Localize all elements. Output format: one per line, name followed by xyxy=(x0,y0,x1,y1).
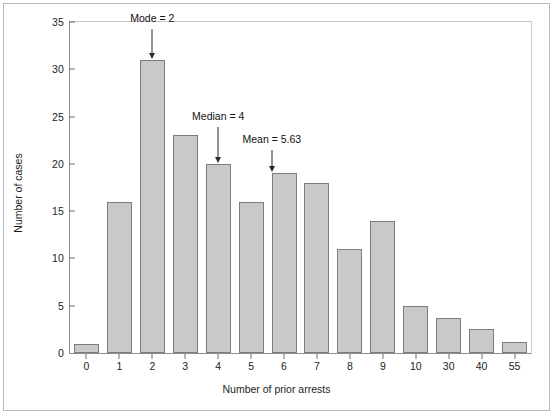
histogram-bar xyxy=(436,318,461,353)
histogram-bar xyxy=(272,173,297,353)
histogram-bar xyxy=(140,60,165,353)
x-axis-tick-mark xyxy=(382,354,383,359)
y-axis-tick-label: 20 xyxy=(52,158,64,170)
x-axis-tick-mark xyxy=(448,354,449,359)
x-axis-tick-mark xyxy=(86,354,87,359)
x-axis-tick-label: 5 xyxy=(248,360,254,372)
histogram-bar xyxy=(206,164,231,353)
y-axis-tick-label: 5 xyxy=(58,300,64,312)
chart-annotation-arrow-head xyxy=(149,53,155,59)
x-axis-tick-mark xyxy=(152,354,153,359)
histogram-bar xyxy=(502,342,527,353)
x-axis-tick-label: 1 xyxy=(116,360,122,372)
histogram-bar xyxy=(337,249,362,353)
y-axis-tick-mark xyxy=(69,258,75,259)
x-axis-tick-mark xyxy=(185,354,186,359)
y-axis-tick-label: 15 xyxy=(52,205,64,217)
chart-annotation-label: Median = 4 xyxy=(192,110,244,122)
x-axis-tick-label: 4 xyxy=(215,360,221,372)
y-axis-tick-label: 35 xyxy=(52,16,64,28)
histogram-bar xyxy=(74,344,99,353)
x-axis-tick-mark xyxy=(119,354,120,359)
x-axis-tick-label: 40 xyxy=(476,360,488,372)
plot-area xyxy=(69,21,532,354)
histogram-bar xyxy=(239,202,264,353)
chart-annotation-arrow-line xyxy=(218,127,219,157)
histogram-bar xyxy=(403,306,428,353)
y-axis-tick-mark xyxy=(69,116,75,117)
histogram-bar xyxy=(173,135,198,353)
x-axis-tick-mark xyxy=(415,354,416,359)
y-axis-tick-mark xyxy=(69,211,75,212)
x-axis-tick-label: 9 xyxy=(380,360,386,372)
y-axis-tick-label: 0 xyxy=(58,347,64,359)
y-axis-tick-label: 10 xyxy=(52,252,64,264)
histogram-bar xyxy=(107,202,132,353)
x-axis-tick-mark xyxy=(349,354,350,359)
x-axis-tick-label: 10 xyxy=(410,360,422,372)
x-axis-tick-label: 30 xyxy=(443,360,455,372)
histogram-figure: 05101520253035 Number of cases Mode = 2M… xyxy=(0,0,553,414)
chart-annotation-arrow-line xyxy=(271,150,272,166)
x-axis-tick-mark xyxy=(284,354,285,359)
histogram-bar xyxy=(304,183,329,353)
histogram-bar xyxy=(370,221,395,353)
y-axis-tick-label: 25 xyxy=(52,111,64,123)
y-axis-tick-labels: 05101520253035 xyxy=(38,0,64,414)
y-axis-tick-mark xyxy=(69,69,75,70)
y-axis-tick-label: 30 xyxy=(52,63,64,75)
x-axis-tick-label: 0 xyxy=(84,360,90,372)
y-axis-tick-mark xyxy=(69,163,75,164)
x-axis-tick-label: 55 xyxy=(509,360,521,372)
y-axis-title: Number of cases xyxy=(12,113,24,273)
x-axis-tick-mark xyxy=(514,354,515,359)
chart-annotation-arrow-head xyxy=(269,166,275,172)
y-axis-tick-mark xyxy=(69,22,75,23)
x-axis-title: Number of prior arrests xyxy=(0,383,553,395)
histogram-bar xyxy=(469,329,494,353)
chart-annotation-label: Mean = 5.63 xyxy=(243,133,302,145)
chart-annotation-arrow-line xyxy=(152,29,153,53)
x-axis-tick-mark xyxy=(218,354,219,359)
x-axis-tick-label: 6 xyxy=(281,360,287,372)
chart-annotation-label: Mode = 2 xyxy=(130,12,174,24)
x-axis-tick-mark xyxy=(481,354,482,359)
y-axis-tick-mark xyxy=(69,305,75,306)
x-axis-tick-label: 3 xyxy=(182,360,188,372)
x-axis-tick-mark xyxy=(316,354,317,359)
x-axis-tick-label: 7 xyxy=(314,360,320,372)
chart-annotation-arrow-head xyxy=(215,157,221,163)
x-axis-tick-mark xyxy=(251,354,252,359)
x-axis-tick-label: 8 xyxy=(347,360,353,372)
x-axis-tick-label: 2 xyxy=(149,360,155,372)
